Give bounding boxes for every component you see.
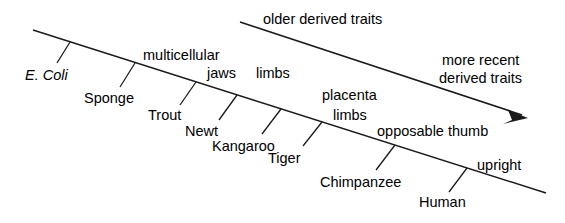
trait-label-limbs-lower: limbs — [333, 108, 367, 123]
organism-label-newt: Newt — [185, 124, 218, 139]
trait-label-upright: upright — [477, 158, 521, 173]
tick-tiger — [303, 122, 322, 146]
organism-label-sponge: Sponge — [84, 91, 134, 106]
tick-sponge — [120, 63, 135, 87]
diagram-lines — [0, 0, 565, 223]
organism-label-kangaroo: Kangaroo — [212, 139, 275, 154]
trait-label-opposable-thumb: opposable thumb — [377, 124, 488, 139]
organism-label-trout: Trout — [148, 108, 181, 123]
tick-human — [449, 168, 467, 192]
trait-label-jaws: jaws — [207, 66, 236, 81]
tick-kangaroo — [262, 109, 281, 134]
tick-e-coli — [57, 42, 70, 63]
organism-label-tiger: Tiger — [268, 151, 301, 166]
more-recent-derived-traits-label-line1: more recent — [442, 52, 519, 69]
tick-newt — [219, 95, 237, 120]
more-recent-derived-traits-label-line2: derived traits — [439, 70, 522, 87]
trait-label-placenta: placenta — [322, 88, 377, 103]
organism-label-human: Human — [419, 195, 466, 210]
tick-chimpanzee — [376, 145, 395, 170]
trait-label-multicellular: multicellular — [143, 48, 220, 63]
trait-label-limbs-upper: limbs — [256, 66, 290, 81]
older-derived-traits-label: older derived traits — [263, 12, 382, 27]
organism-label-chimpanzee: Chimpanzee — [320, 175, 401, 190]
tick-trout — [180, 82, 196, 105]
cladogram-figure: older derived traits more recent derived… — [0, 0, 565, 223]
organism-label-e-coli: E. Coli — [25, 68, 68, 83]
